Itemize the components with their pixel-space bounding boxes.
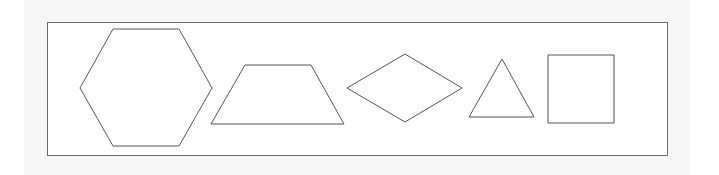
figure-frame [48, 23, 668, 156]
diagram-canvas [0, 0, 719, 175]
shapes-figure [0, 0, 719, 175]
